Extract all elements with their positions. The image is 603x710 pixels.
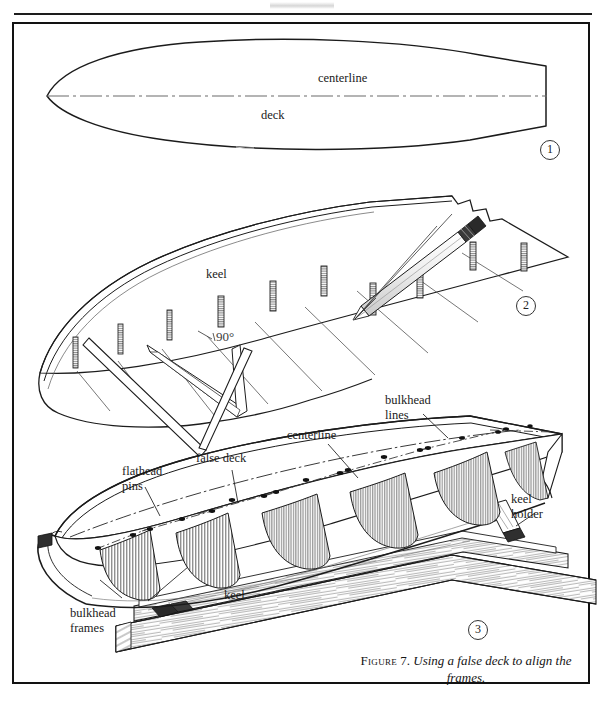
panel3-label-keel: keel	[224, 589, 245, 603]
figure-caption: Figure 7. Using a false deck to align th…	[351, 652, 581, 686]
page-header-rule	[14, 13, 592, 15]
panel3-label-flathead-pins: flathead pins	[122, 464, 162, 493]
panel3-label-bulkhead-lines: bulkhead lines	[385, 393, 431, 422]
panel3-label-keel-holder: keel holder	[511, 492, 543, 521]
caption-figure-word: Figure	[361, 653, 398, 668]
panel1-label-centerline: centerline	[318, 72, 367, 86]
panel2-label-keel: keel	[206, 268, 227, 282]
caption-figure-title: Using a false deck to align the frames.	[413, 653, 571, 685]
panel2-label-angle: 90°	[216, 330, 234, 344]
panel3-badge: 3	[468, 620, 488, 640]
figure-frame	[12, 22, 590, 684]
page-header-smudge	[270, 2, 334, 9]
panel2-badge: 2	[516, 296, 536, 316]
figure-page: centerline deck 1 keel 90° 2 bulkhead li…	[0, 0, 603, 710]
panel3-label-false-deck: false deck	[196, 452, 246, 466]
caption-figure-number: 7.	[400, 653, 410, 668]
panel3-label-bulkhead-frames: bulkhead frames	[70, 606, 116, 635]
panel1-badge: 1	[540, 140, 560, 160]
panel3-label-centerline: centerline	[287, 429, 336, 443]
panel1-label-deck: deck	[261, 109, 285, 123]
